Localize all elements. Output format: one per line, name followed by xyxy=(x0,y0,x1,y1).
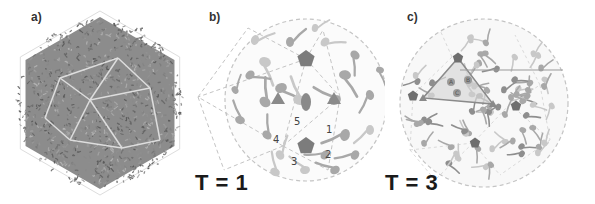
subunit-number-2: 2 xyxy=(325,149,331,160)
subunit-number-3: 3 xyxy=(291,156,297,167)
panel-c: c) ABC T = 3 xyxy=(380,0,595,204)
subunit-label-b: B xyxy=(466,76,470,83)
subunit-number-1: 1 xyxy=(326,124,332,135)
panel-a: a) xyxy=(0,0,195,204)
panel-b: b) 12345 T = 1 xyxy=(195,0,385,204)
twofold-axis-ellipse xyxy=(301,93,311,111)
capsid-atomic-model xyxy=(0,0,195,204)
subunit-label-c: C xyxy=(455,89,459,96)
subunit-number-5: 5 xyxy=(294,116,300,127)
t-number-label-b: T = 1 xyxy=(195,170,248,196)
protein-mass xyxy=(16,17,183,189)
subunit-number-4: 4 xyxy=(273,134,279,145)
t-number-label-c: T = 3 xyxy=(385,170,438,196)
